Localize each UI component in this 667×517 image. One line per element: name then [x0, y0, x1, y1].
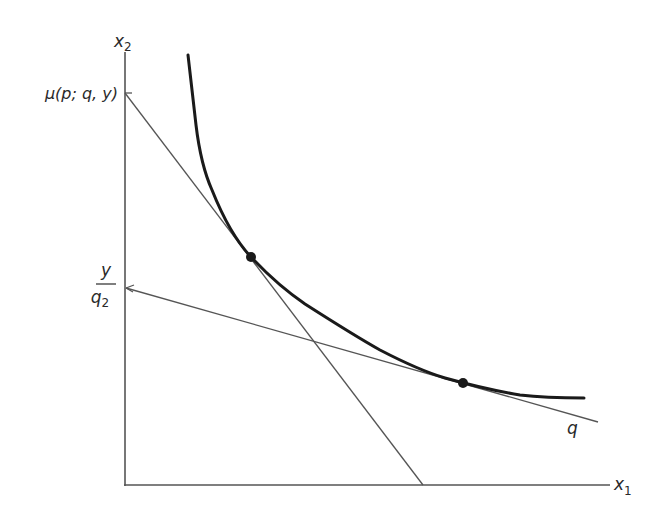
budget-denominator: q2: [91, 287, 109, 310]
y-over-q2-label: y q2: [91, 260, 116, 310]
budget-numerator: y: [100, 260, 112, 280]
y-axis-label: x2: [113, 31, 132, 54]
diagram-canvas: x2 x1 μ(p; q, y) y q2 q: [0, 0, 667, 517]
tangent-point-q: [458, 378, 468, 388]
q-line-label: q: [567, 418, 578, 438]
budget-line-q: [126, 288, 598, 422]
indifference-curve: [188, 55, 584, 398]
budget-line-p: [125, 93, 423, 485]
x-axis-label: x1: [613, 474, 632, 498]
tangent-point-p: [246, 252, 256, 262]
mu-label: μ(p; q, y): [44, 84, 118, 103]
